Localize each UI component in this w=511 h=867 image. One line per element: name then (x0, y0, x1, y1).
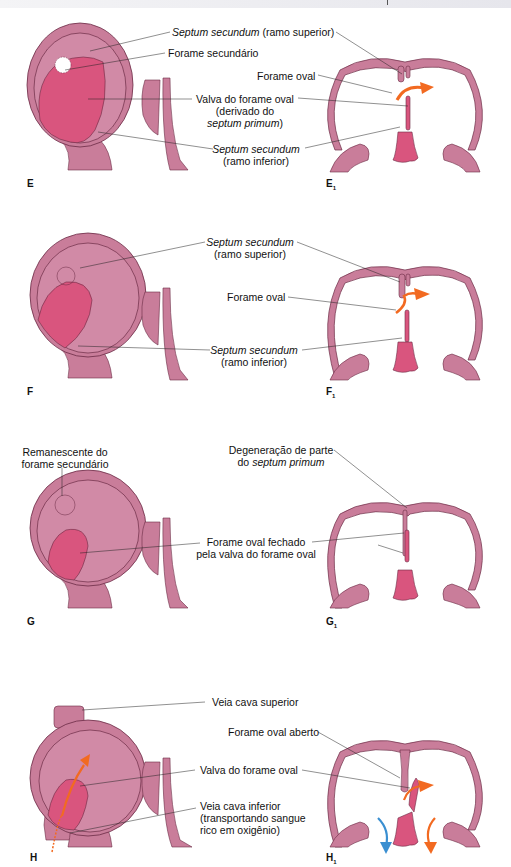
label-veia-cava-superior: Veia cava superior (212, 696, 298, 708)
heart-frontal-section-g (328, 502, 483, 608)
label-septum-secundum-ramo-inferior: Septum secundum (ramo inferior) (208, 143, 304, 167)
label-septum-secundum-ramo-superior: Septum secundum (ramo superior) (172, 26, 334, 38)
label-septum-secundum-ramo-inferior: Septum secundum (ramo inferior) (205, 344, 303, 368)
heart-frontal-section-f (328, 266, 483, 380)
label-degeneracao-septum-primum: Degeneração de parte do septum primum (226, 444, 336, 468)
label-veia-cava-inferior: Veia cava inferior (transportando sangue… (200, 800, 306, 836)
figure-label-e1: E1 (326, 178, 336, 191)
heart-frontal-section-e (328, 58, 483, 172)
figure-label-f: F (27, 386, 33, 397)
figure-label-f1: F1 (326, 386, 335, 399)
figure-label-g: G (27, 616, 35, 627)
figure-label-h1: H1 (326, 852, 337, 865)
figure-label-h: H (30, 852, 37, 863)
heart-lateral-view-e (27, 23, 188, 170)
figure-label-g1: G1 (326, 616, 337, 629)
label-forame-oval: Forame oval (257, 70, 315, 82)
panel-e: Septum secundum (ramo superior) Forame s… (0, 0, 511, 210)
label-valva-do-forame-oval: Valva do forame oval (derivado do septum… (193, 93, 297, 129)
panel-f: Septum secundum (ramo superior) Forame o… (0, 200, 511, 420)
panel-f-illustration (0, 200, 511, 420)
panel-h: Veia cava superior Forame oval aberto Va… (0, 640, 511, 867)
label-remanescente-forame-secundario: Remanescente do forame secundário (18, 446, 112, 470)
figure-label-e: E (27, 178, 34, 189)
label-septum-secundum-ramo-superior: Septum secundum (ramo superior) (200, 236, 300, 260)
label-forame-oval-aberto: Forame oval aberto (228, 726, 319, 738)
arrow-head-icon (424, 842, 437, 854)
panel-g: Remanescente do forame secundário Degene… (0, 420, 511, 640)
arrow-head-icon (420, 82, 434, 94)
label-forame-oval: Forame oval (227, 291, 285, 303)
blood-flow-arrow-blue (378, 818, 387, 846)
label-valva-do-forame-oval: Valva do forame oval (200, 764, 298, 776)
heart-frontal-section-h (328, 740, 483, 854)
label-forame-oval-fechado: Forame oval fechado pela valva do forame… (195, 536, 317, 560)
heart-lateral-view-h (30, 706, 192, 852)
heart-lateral-view-f (30, 233, 188, 380)
arrow-head-icon (414, 288, 430, 300)
arrow-head-icon-blue (380, 842, 392, 854)
blood-flow-arrow (397, 87, 425, 100)
arrow-head-icon (418, 780, 434, 792)
blood-flow-arrow-orange-down (428, 818, 435, 846)
heart-lateral-view-g (30, 470, 188, 608)
label-forame-secundario: Forame secundário (168, 47, 258, 59)
